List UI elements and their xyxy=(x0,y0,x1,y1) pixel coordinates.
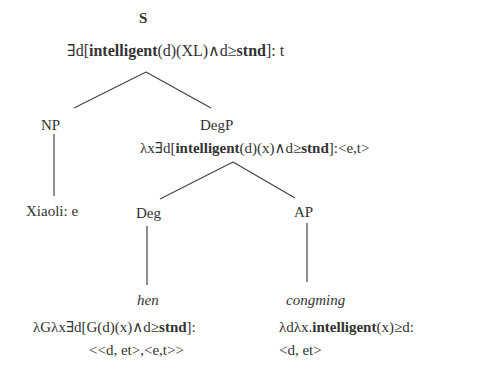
edge-degp-deg xyxy=(160,162,233,199)
sem-part: (d)(XL)∧d≥ xyxy=(157,42,236,59)
node-deg-semantics: λGλx∃d[G(d)(x)∧d≥stnd]: xyxy=(33,318,196,336)
sem-predicate: intelligent xyxy=(175,140,239,156)
node-deg-type: <<d, et>,<e,t>> xyxy=(89,341,184,359)
sem-predicate: intelligent xyxy=(89,42,157,59)
sem-part: λdλx. xyxy=(279,319,312,335)
sem-standard: stnd xyxy=(159,319,187,335)
sem-part: λGλx∃d[G(d)(x)∧d≥ xyxy=(33,319,159,335)
node-deg-word: hen xyxy=(137,291,159,309)
node-ap-word: congming xyxy=(286,291,345,309)
node-degp-semantics: λx∃d[intelligent(d)(x)∧d≥stnd]:<e,t> xyxy=(140,139,369,157)
sem-standard: stnd xyxy=(301,140,329,156)
edge-s-degp xyxy=(146,72,211,108)
sem-part: ∃d[ xyxy=(67,42,89,59)
node-s-category: S xyxy=(139,9,147,27)
node-deg-category: Deg xyxy=(136,204,161,222)
edge-s-np xyxy=(74,72,146,108)
sem-standard: stnd xyxy=(237,42,266,59)
node-ap-category: AP xyxy=(294,203,313,221)
node-ap-type: <d, et> xyxy=(279,341,322,359)
sem-part: λx∃d[ xyxy=(140,140,175,156)
sem-part: ]: xyxy=(187,319,196,335)
sem-type: ]:<e,t> xyxy=(329,140,370,156)
sem-part: (d)(x)∧d≥ xyxy=(240,140,302,156)
node-ap-semantics: λdλx.intelligent(x)≥d: xyxy=(279,318,414,336)
node-np-leaf: Xiaoli: e xyxy=(26,202,78,220)
sem-type: ]: t xyxy=(266,42,284,59)
node-s-semantics: ∃d[intelligent(d)(XL)∧d≥stnd]: t xyxy=(67,42,284,60)
node-np-category: NP xyxy=(41,116,60,134)
sem-predicate: intelligent xyxy=(312,319,376,335)
sem-part: (x)≥d: xyxy=(376,319,413,335)
node-degp-category: DegP xyxy=(200,116,233,134)
edge-degp-ap xyxy=(233,162,295,198)
